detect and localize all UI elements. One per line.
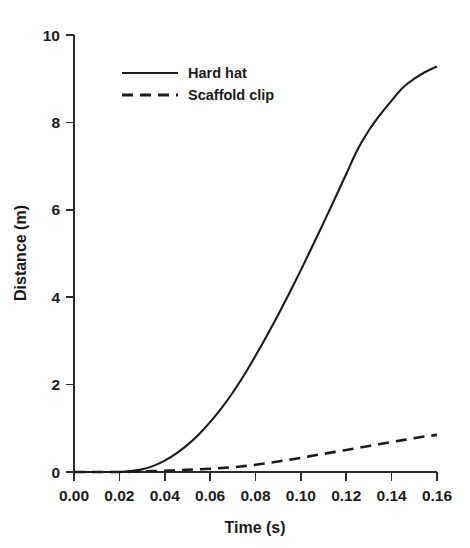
distance-vs-time-line-chart: 0246810 0.000.020.040.060.080.100.120.14…: [0, 0, 470, 548]
x-tick-label: 0.14: [377, 487, 408, 504]
y-tick-label: 0: [51, 464, 60, 481]
chart-background: [0, 0, 470, 548]
y-tick-label: 4: [51, 289, 60, 306]
x-tick-label: 0.04: [150, 487, 181, 504]
x-tick-label: 0.16: [422, 487, 453, 504]
y-axis-title: Distance (m): [12, 205, 29, 301]
x-tick-label: 0.00: [59, 487, 89, 504]
x-tick-label: 0.02: [104, 487, 134, 504]
y-tick-label: 6: [51, 201, 60, 218]
x-tick-label: 0.08: [240, 487, 271, 504]
y-tick-label: 10: [43, 27, 60, 44]
x-tick-label: 0.10: [286, 487, 316, 504]
x-tick-label: 0.06: [195, 487, 226, 504]
y-tick-label: 2: [51, 376, 60, 393]
legend-label-hard-hat: Hard hat: [188, 65, 247, 81]
x-tick-label: 0.12: [331, 487, 361, 504]
x-axis-title: Time (s): [224, 519, 285, 536]
chart-figure: 0246810 0.000.020.040.060.080.100.120.14…: [0, 0, 470, 548]
legend-label-scaffold-clip: Scaffold clip: [188, 87, 274, 103]
y-tick-label: 8: [51, 114, 60, 131]
